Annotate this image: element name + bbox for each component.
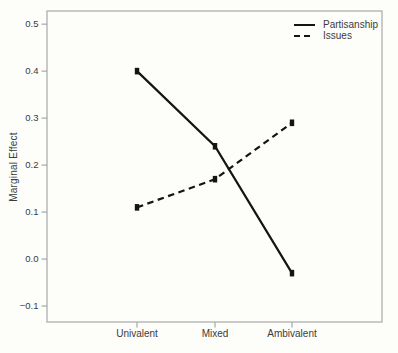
- series-line-partisanship: [137, 71, 292, 273]
- series-line-issues: [137, 123, 292, 208]
- legend-label: Partisanship: [323, 20, 378, 30]
- data-point-marker: [213, 176, 217, 183]
- y-tick-label: 0.5: [25, 18, 38, 29]
- dashed-line-swatch: [294, 35, 315, 37]
- y-tick-label: −0.1: [20, 300, 39, 311]
- marginal-effect-line-chart: Marginal Effect 0.50.40.30.20.10.0−0.1Un…: [0, 0, 398, 353]
- y-tick-label: 0.0: [25, 253, 38, 264]
- data-point-marker: [290, 270, 294, 277]
- y-tick-label: 0.4: [25, 65, 38, 76]
- plot-area: 0.50.40.30.20.10.0−0.1UnivalentMixedAmbi…: [0, 0, 398, 353]
- x-tick-label: Mixed: [202, 328, 229, 339]
- y-tick-label: 0.1: [25, 206, 38, 217]
- data-point-marker: [213, 143, 217, 150]
- data-point-marker: [290, 120, 294, 127]
- data-point-marker: [135, 204, 139, 211]
- y-tick-label: 0.2: [25, 159, 38, 170]
- x-tick-label: Univalent: [116, 328, 158, 339]
- legend-item-partisanship: Partisanship: [294, 19, 378, 31]
- legend: Partisanship Issues: [294, 19, 378, 42]
- data-point-marker: [135, 68, 139, 75]
- legend-label: Issues: [323, 31, 352, 41]
- y-tick-label: 0.3: [25, 112, 38, 123]
- legend-item-issues: Issues: [294, 31, 378, 43]
- solid-line-swatch: [294, 24, 315, 26]
- plot-frame: [47, 11, 382, 322]
- x-tick-label: Ambivalent: [267, 328, 317, 339]
